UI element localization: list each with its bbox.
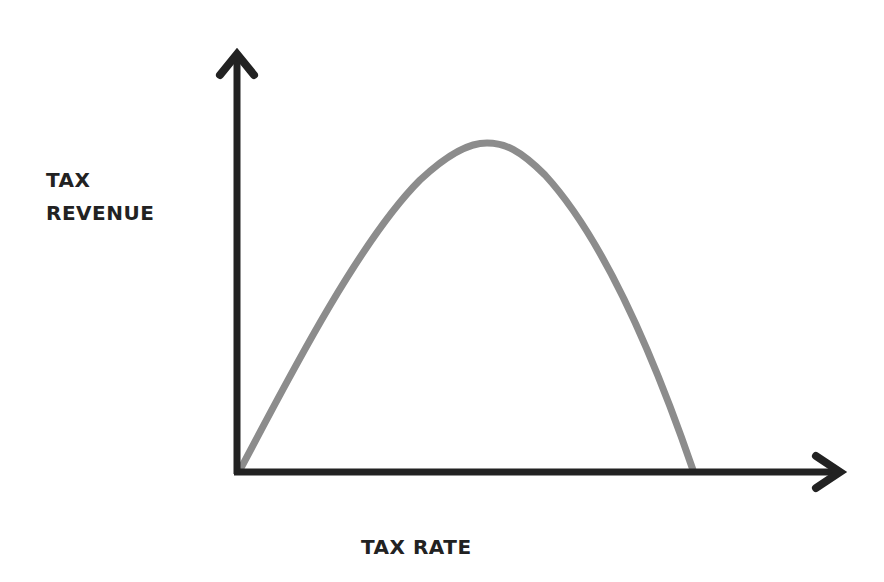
x-axis-label: TAX RATE — [361, 537, 472, 557]
y-axis-label-line1: TAX — [46, 170, 154, 190]
y-axis-label-line2: REVENUE — [46, 203, 154, 223]
y-axis-label: TAX REVENUE — [46, 170, 154, 236]
laffer-curve-diagram — [0, 0, 884, 582]
laffer-curve — [240, 143, 693, 470]
